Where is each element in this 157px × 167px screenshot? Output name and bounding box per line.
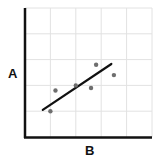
data-point [94, 63, 98, 67]
grid-lines [25, 8, 152, 137]
x-axis-label: B [85, 144, 94, 157]
data-point [112, 73, 116, 77]
data-points [48, 63, 116, 114]
data-point [48, 109, 52, 113]
axes [24, 8, 152, 138]
data-point [74, 83, 78, 87]
y-axis-label: A [8, 67, 17, 80]
scatter-chart [0, 0, 157, 167]
data-point [53, 88, 57, 92]
data-point [89, 86, 93, 90]
